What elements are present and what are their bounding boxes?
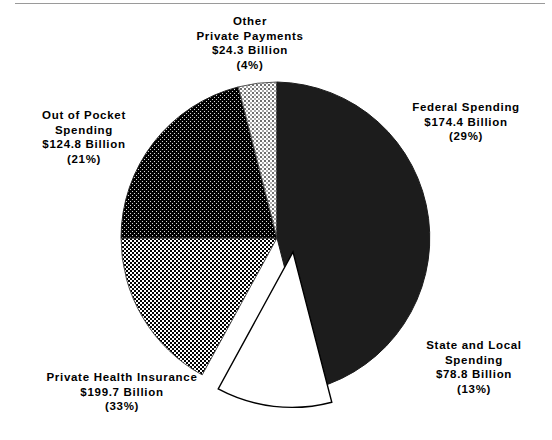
label-line: Spending — [8, 123, 160, 138]
slice-label-state-and-local: State and Local Spending $78.8 Billion (… — [398, 338, 550, 396]
label-line: Other — [160, 14, 340, 29]
label-line: (4%) — [160, 58, 340, 73]
label-line: (21%) — [8, 152, 160, 167]
label-line: State and Local — [398, 338, 550, 353]
slice-label-other-private-payments: Other Private Payments $24.3 Billion (4%… — [160, 14, 340, 72]
label-line: (33%) — [22, 399, 222, 414]
slice-label-private-health-insurance: Private Health Insurance $199.7 Billion … — [22, 370, 222, 414]
label-line: Spending — [398, 353, 550, 368]
label-line: $24.3 Billion — [160, 43, 340, 58]
label-line: $124.8 Billion — [8, 137, 160, 152]
pie-chart-page: Other Private Payments $24.3 Billion (4%… — [0, 0, 552, 440]
label-line: (29%) — [382, 129, 550, 144]
label-line: Out of Pocket — [8, 108, 160, 123]
slice-label-out-of-pocket: Out of Pocket Spending $124.8 Billion (2… — [8, 108, 160, 166]
label-line: Private Payments — [160, 29, 340, 44]
label-line: $174.4 Billion — [382, 115, 550, 130]
label-line: Private Health Insurance — [22, 370, 222, 385]
label-line: Federal Spending — [382, 100, 550, 115]
label-line: $78.8 Billion — [398, 367, 550, 382]
label-line: (13%) — [398, 382, 550, 397]
label-line: $199.7 Billion — [22, 385, 222, 400]
slice-label-federal-spending: Federal Spending $174.4 Billion (29%) — [382, 100, 550, 144]
